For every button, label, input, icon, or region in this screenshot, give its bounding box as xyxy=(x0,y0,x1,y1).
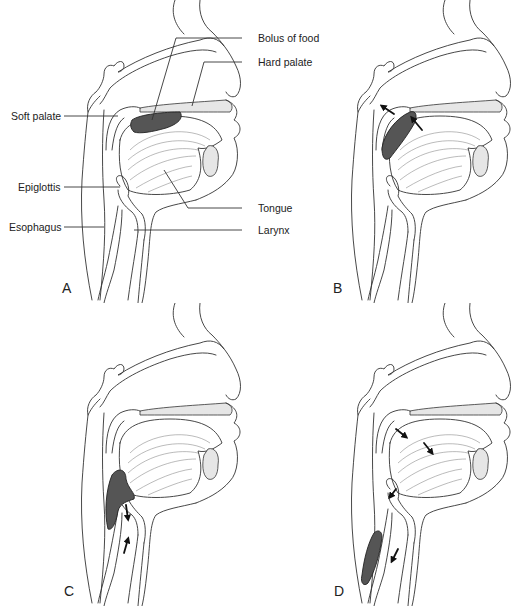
panel-b: B xyxy=(270,0,527,303)
panel-a: Soft palate Epiglottis Esophagus Bolus o… xyxy=(0,0,264,303)
arrow-soft-palate-up xyxy=(382,106,394,114)
arrow-larynx-up xyxy=(124,539,128,553)
bolus-shape xyxy=(131,112,182,133)
anatomy-illustration-a xyxy=(0,0,264,303)
arrow-tongue xyxy=(424,443,432,453)
panel-letter-a: A xyxy=(62,280,71,296)
label-epiglottis: Epiglottis xyxy=(18,181,61,193)
anatomy-illustration-c xyxy=(0,303,264,606)
arrow-soft-palate xyxy=(396,429,406,437)
label-esophagus: Esophagus xyxy=(9,221,62,233)
bolus-shape xyxy=(106,470,134,529)
panel-c: C xyxy=(0,303,264,606)
panel-letter-d: D xyxy=(334,583,344,599)
panel-letter-b: B xyxy=(333,280,342,296)
panel-d: D xyxy=(270,303,527,606)
arrow-epiglottis xyxy=(390,489,396,497)
panel-letter-c: C xyxy=(64,583,74,599)
label-soft-palate: Soft palate xyxy=(11,110,61,122)
anatomy-illustration-d xyxy=(270,303,527,606)
anatomy-illustration-b xyxy=(270,0,527,303)
arrow-esophagus-down xyxy=(392,549,398,561)
bolus-shape xyxy=(382,112,416,160)
arrow-epiglottis-down xyxy=(126,505,128,519)
